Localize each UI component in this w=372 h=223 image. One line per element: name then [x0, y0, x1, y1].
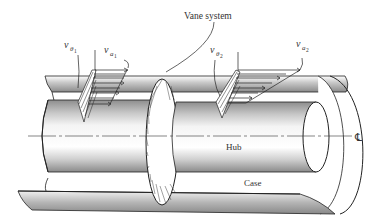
case-label: Case	[244, 178, 262, 188]
hub-label: Hub	[226, 142, 242, 152]
svg-text:2: 2	[306, 47, 309, 53]
hub-right	[172, 102, 329, 172]
svg-text:v: v	[104, 44, 109, 55]
svg-text:2: 2	[220, 53, 223, 59]
label-v-theta-1: v θ 1	[64, 39, 77, 54]
label-v-theta-2: v θ 2	[210, 44, 223, 59]
label-v-a-2: v a 2	[296, 38, 309, 53]
vane-system-label: Vane system	[184, 11, 232, 21]
svg-text:v: v	[64, 39, 69, 50]
turbomachine-vane-diagram: Vane system Hub Case ℄ v θ 1 v a 1 v θ 2…	[0, 0, 372, 223]
svg-text:1: 1	[74, 48, 77, 54]
svg-text:1: 1	[114, 53, 117, 59]
svg-text:v: v	[296, 38, 301, 49]
centerline-symbol: ℄	[354, 131, 362, 143]
label-v-a-1: v a 1	[104, 44, 117, 59]
vane-system-leader	[166, 22, 214, 72]
svg-text:v: v	[210, 44, 215, 55]
case-lower-band	[18, 178, 335, 214]
